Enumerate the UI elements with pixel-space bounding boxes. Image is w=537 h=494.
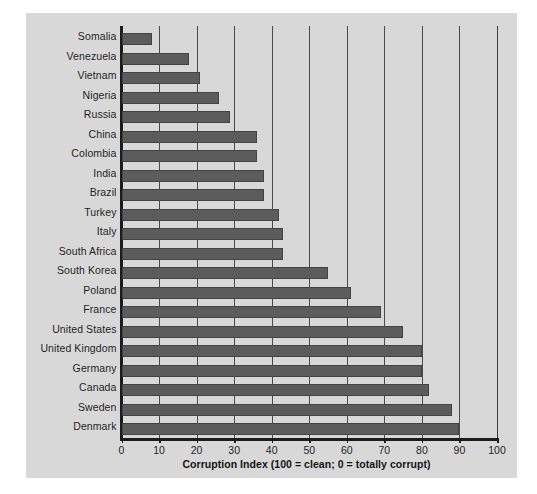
bars-group: SomaliaVenezuelaVietnamNigeriaRussiaChin…: [122, 26, 498, 438]
bar: [122, 92, 220, 104]
bar-row: Denmark: [122, 419, 498, 439]
x-tick-70: [384, 438, 386, 443]
gridline-100: [497, 26, 498, 438]
chart-page: SomaliaVenezuelaVietnamNigeriaRussiaChin…: [0, 0, 537, 494]
bar-row: India: [122, 166, 498, 186]
x-tick-80: [422, 438, 424, 443]
bar: [122, 306, 381, 318]
bar: [122, 209, 280, 221]
bar-row: United States: [122, 322, 498, 342]
category-label: Russia: [84, 108, 117, 120]
bar: [122, 423, 460, 435]
x-axis-title-text: Corruption Index (100 = clean; 0 = total…: [182, 458, 430, 470]
bar: [122, 228, 283, 240]
category-label: India: [93, 167, 116, 179]
category-label: Poland: [83, 284, 116, 296]
bar: [122, 248, 283, 260]
bar: [122, 33, 152, 45]
bar: [122, 53, 190, 65]
bar: [122, 131, 257, 143]
category-label: Venezuela: [67, 50, 117, 62]
bar-row: United Kingdom: [122, 341, 498, 361]
bar: [122, 345, 422, 357]
bar-row: Russia: [122, 107, 498, 127]
bar: [122, 72, 201, 84]
category-label: Brazil: [90, 186, 117, 198]
x-tick-label-70: 70: [379, 444, 391, 456]
bar: [122, 384, 430, 396]
bar-row: Colombia: [122, 146, 498, 166]
category-label: Sweden: [78, 401, 117, 413]
bar-row: Vietnam: [122, 68, 498, 88]
x-tick-label-80: 80: [416, 444, 428, 456]
bar-row: Somalia: [122, 29, 498, 49]
x-tick-label-90: 90: [454, 444, 466, 456]
category-label: Canada: [79, 381, 116, 393]
category-label: South Africa: [59, 245, 117, 257]
bar: [122, 326, 404, 338]
category-label: Denmark: [73, 420, 116, 432]
x-tick-label-40: 40: [266, 444, 278, 456]
x-tick-10: [159, 438, 161, 443]
category-label: United Kingdom: [40, 342, 116, 354]
category-label: France: [83, 303, 116, 315]
bar-row: Venezuela: [122, 49, 498, 69]
bar-row: South Korea: [122, 263, 498, 283]
x-tick-100: [497, 438, 499, 443]
category-label: Vietnam: [77, 69, 116, 81]
bar: [122, 365, 422, 377]
bar: [122, 404, 452, 416]
x-tick-50: [309, 438, 311, 443]
x-tick-label-10: 10: [153, 444, 165, 456]
bar-row: Turkey: [122, 205, 498, 225]
bar: [122, 111, 231, 123]
x-tick-20: [197, 438, 199, 443]
category-label: South Korea: [57, 264, 116, 276]
bar-row: Germany: [122, 361, 498, 381]
bar-row: Canada: [122, 380, 498, 400]
category-label: United States: [52, 323, 116, 335]
bar: [122, 170, 265, 182]
category-label: Colombia: [71, 147, 116, 159]
x-tick-0: [122, 438, 124, 443]
category-label: Germany: [73, 362, 117, 374]
category-label: Nigeria: [83, 89, 117, 101]
bar: [122, 189, 265, 201]
x-tick-label-0: 0: [119, 444, 125, 456]
x-tick-label-60: 60: [341, 444, 353, 456]
category-label: Turkey: [84, 206, 116, 218]
category-label: Somalia: [78, 30, 117, 42]
x-tick-label-20: 20: [191, 444, 203, 456]
bar-row: Italy: [122, 224, 498, 244]
bar-row: France: [122, 302, 498, 322]
bar-row: Poland: [122, 283, 498, 303]
x-tick-30: [234, 438, 236, 443]
bar-row: South Africa: [122, 244, 498, 264]
bar-row: Brazil: [122, 185, 498, 205]
x-tick-label-50: 50: [303, 444, 315, 456]
bar-row: Sweden: [122, 400, 498, 420]
x-tick-label-100: 100: [488, 444, 506, 456]
x-axis-title: Corruption Index (100 = clean; 0 = total…: [0, 458, 537, 470]
bar: [122, 150, 257, 162]
category-label: China: [89, 128, 117, 140]
bar-row: China: [122, 127, 498, 147]
bar: [122, 267, 329, 279]
x-tick-label-30: 30: [228, 444, 240, 456]
plot-area: SomaliaVenezuelaVietnamNigeriaRussiaChin…: [122, 26, 498, 438]
category-label: Italy: [97, 225, 117, 237]
bar: [122, 287, 351, 299]
x-tick-90: [459, 438, 461, 443]
x-tick-60: [347, 438, 349, 443]
x-tick-40: [272, 438, 274, 443]
bar-row: Nigeria: [122, 88, 498, 108]
